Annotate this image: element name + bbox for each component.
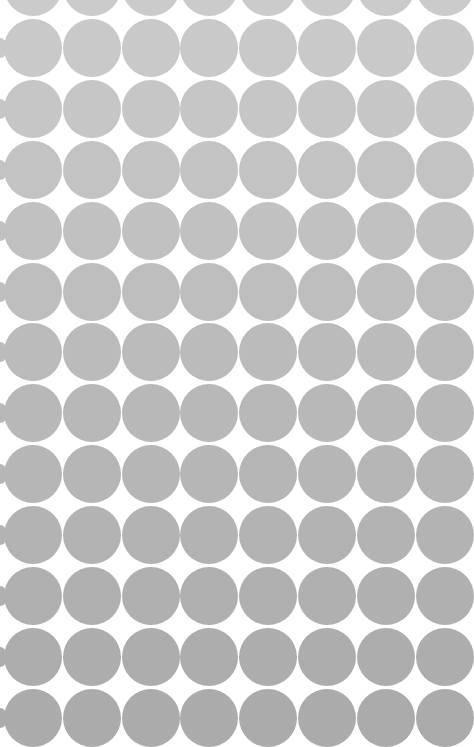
dot	[357, 323, 415, 381]
dot	[122, 0, 180, 16]
dot	[416, 19, 474, 77]
dot	[4, 689, 62, 747]
dot	[298, 0, 356, 16]
dot	[357, 445, 415, 503]
dot	[416, 80, 474, 138]
dot	[4, 263, 62, 321]
dot	[4, 384, 62, 442]
dot	[416, 628, 474, 686]
dot	[180, 567, 238, 625]
dot	[416, 0, 474, 16]
dot	[63, 506, 121, 564]
edge-dot-sliver	[0, 525, 6, 545]
dot	[357, 202, 415, 260]
dot	[357, 689, 415, 747]
dot	[63, 323, 121, 381]
dot	[63, 263, 121, 321]
dot	[4, 0, 62, 16]
dot	[180, 19, 238, 77]
dot	[122, 323, 180, 381]
dot	[298, 202, 356, 260]
dot	[416, 506, 474, 564]
dot	[239, 567, 297, 625]
dot	[180, 506, 238, 564]
dot	[298, 323, 356, 381]
edge-dot-sliver	[0, 708, 6, 728]
dot	[122, 141, 180, 199]
dot	[122, 19, 180, 77]
dot	[298, 689, 356, 747]
dot	[239, 689, 297, 747]
dot	[416, 263, 474, 321]
dot	[298, 80, 356, 138]
dot	[180, 445, 238, 503]
dot	[4, 323, 62, 381]
dot	[239, 323, 297, 381]
dot	[63, 19, 121, 77]
dot	[4, 80, 62, 138]
dot	[239, 202, 297, 260]
dot	[63, 689, 121, 747]
dot	[239, 384, 297, 442]
dot	[63, 628, 121, 686]
dot	[63, 567, 121, 625]
dot	[298, 19, 356, 77]
dot	[63, 141, 121, 199]
dot	[416, 445, 474, 503]
dot	[122, 567, 180, 625]
dot	[122, 506, 180, 564]
edge-dot-sliver	[0, 647, 6, 667]
dot	[4, 445, 62, 503]
dot	[357, 384, 415, 442]
dot	[4, 202, 62, 260]
dot	[4, 506, 62, 564]
edge-dot-sliver	[0, 38, 6, 58]
dot	[122, 384, 180, 442]
dot	[63, 0, 121, 16]
dot	[239, 19, 297, 77]
dot	[416, 567, 474, 625]
dot	[357, 80, 415, 138]
dot	[239, 506, 297, 564]
dot	[239, 0, 297, 16]
dot	[416, 141, 474, 199]
dot	[180, 141, 238, 199]
dot	[357, 263, 415, 321]
dot	[357, 0, 415, 16]
dot	[180, 80, 238, 138]
dot	[180, 628, 238, 686]
dot	[298, 628, 356, 686]
dot	[122, 445, 180, 503]
dot	[239, 628, 297, 686]
dot	[357, 567, 415, 625]
dot	[122, 80, 180, 138]
dot	[63, 80, 121, 138]
dot	[298, 567, 356, 625]
dot	[180, 202, 238, 260]
dot	[357, 19, 415, 77]
edge-dot-sliver	[0, 221, 6, 241]
dot	[298, 141, 356, 199]
dot	[180, 0, 238, 16]
dot	[239, 263, 297, 321]
dot	[63, 384, 121, 442]
dot	[239, 141, 297, 199]
dot	[122, 263, 180, 321]
dot	[4, 628, 62, 686]
dot	[4, 567, 62, 625]
dot	[180, 323, 238, 381]
dot	[4, 19, 62, 77]
dot	[416, 202, 474, 260]
dot	[298, 384, 356, 442]
dot	[357, 506, 415, 564]
dot	[416, 323, 474, 381]
dot	[298, 263, 356, 321]
dot	[63, 445, 121, 503]
edge-dot-sliver	[0, 99, 6, 119]
dot	[298, 506, 356, 564]
dot	[239, 445, 297, 503]
dot	[180, 689, 238, 747]
edge-dot-sliver	[0, 282, 6, 302]
dot	[357, 628, 415, 686]
